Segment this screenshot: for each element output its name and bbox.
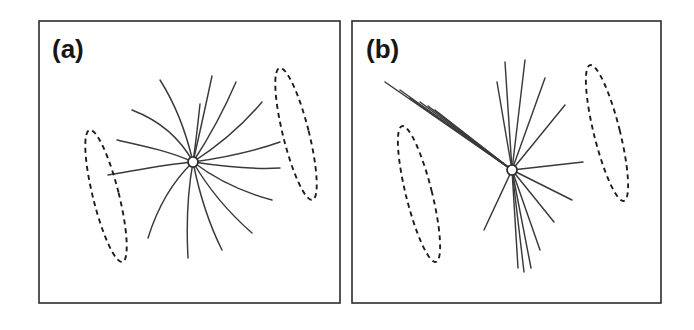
figure-svg: (a)(b) bbox=[0, 0, 694, 330]
panels-group: (a)(b) bbox=[39, 21, 661, 303]
panel-b: (b) bbox=[352, 21, 661, 303]
panel-a: (a) bbox=[39, 21, 340, 303]
panel-a-label: (a) bbox=[52, 34, 84, 64]
panel-a-center-hub bbox=[188, 157, 198, 167]
panel-b-center-hub bbox=[507, 165, 517, 175]
panel-b-label: (b) bbox=[366, 34, 399, 64]
figure-container: (a)(b) bbox=[0, 0, 694, 330]
